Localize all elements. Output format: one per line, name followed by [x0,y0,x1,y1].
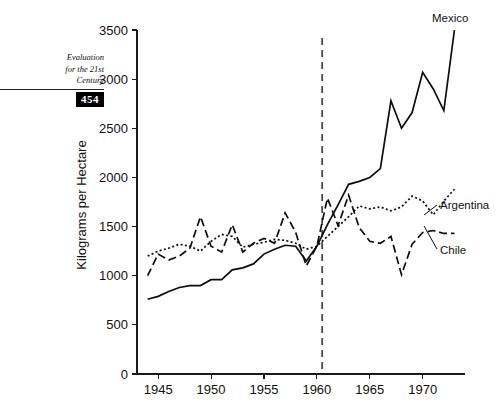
y-axis-ticks: 0500100015002000250030003500 [99,23,137,382]
series-labels-group: MexicoArgentinaChile [424,12,490,256]
series-line-argentina [148,189,455,256]
y-tick-label: 3500 [99,23,128,38]
x-tick-label: 1950 [197,382,226,397]
line-chart: 0500100015002000250030003500 19451950195… [0,0,500,407]
x-tick-label: 1970 [408,382,437,397]
y-tick-label: 2000 [99,170,128,185]
series-label-mexico: Mexico [432,12,468,24]
y-tick-label: 3000 [99,72,128,87]
chart-svg: 0500100015002000250030003500 19451950195… [0,0,500,407]
y-tick-label: 1500 [99,219,128,234]
series-line-chile [148,195,455,276]
y-axis-title: Kilograms per Hectare [74,140,89,269]
x-tick-label: 1965 [355,382,384,397]
y-tick-label: 500 [106,317,128,332]
y-tick-label: 0 [121,367,128,382]
x-axis-ticks: 194519501955196019651970 [144,374,437,397]
x-tick-label: 1955 [250,382,279,397]
y-tick-label: 2500 [99,121,128,136]
x-tick-label: 1960 [302,382,331,397]
y-tick-label: 1000 [99,268,128,283]
data-series-group [148,30,455,299]
series-label-chile: Chile [440,244,466,256]
series-line-mexico [148,30,455,299]
x-tick-label: 1945 [144,382,173,397]
series-leader-chile [424,226,437,249]
series-label-argentina: Argentina [440,199,490,211]
